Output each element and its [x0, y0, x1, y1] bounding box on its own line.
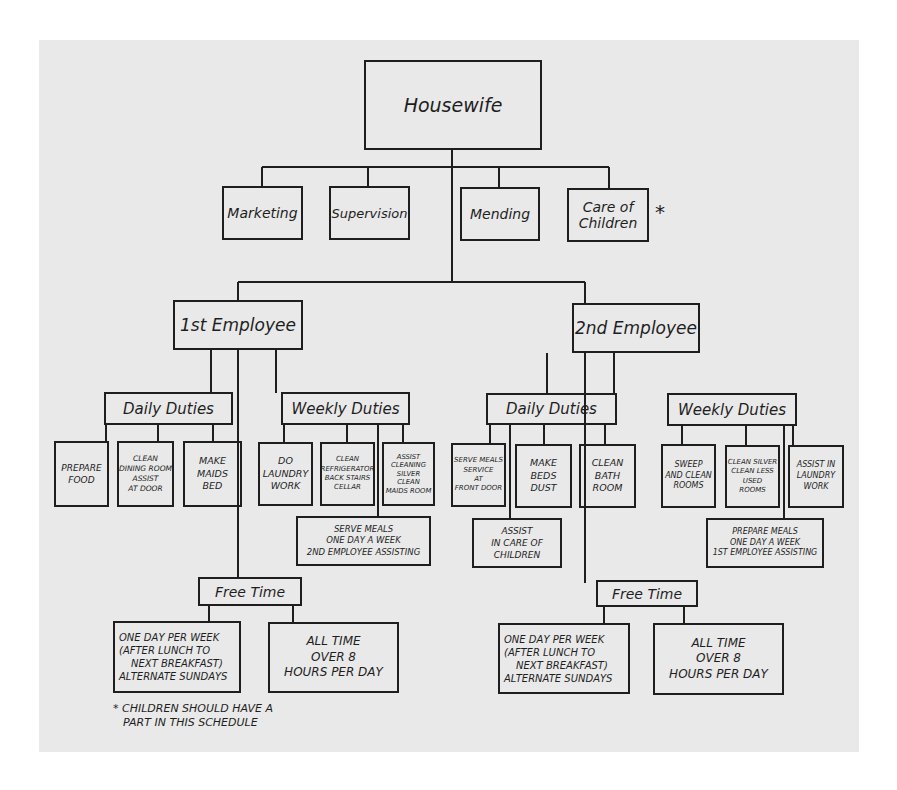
- first-employee-label: 1st Employee: [180, 315, 296, 335]
- first-weekly-task: CLEAN REFRIGERATOR BACK STAIRS CELLAR: [320, 442, 375, 506]
- task-line: 1ST EMPLOYEE ASSISTING: [713, 548, 818, 559]
- task-line: DO: [278, 455, 293, 468]
- task-line: SERVE MEALS: [334, 524, 393, 535]
- free-time-line: HOURS PER DAY: [284, 665, 383, 681]
- task-line: ASSIST: [397, 453, 421, 461]
- task-line: CLEAN: [397, 478, 420, 486]
- second-daily-task: CLEAN BATH ROOM: [579, 444, 636, 508]
- first-free-time-box: Free Time: [198, 577, 302, 606]
- first-weekly-task: DO LAUNDRY WORK: [258, 442, 313, 506]
- task-line: LAUNDRY: [263, 468, 309, 481]
- supervision-label: Supervision: [332, 206, 408, 221]
- task-line: WORK: [803, 482, 828, 493]
- second-free-time-item: ONE DAY PER WEEK (AFTER LUNCH TO NEXT BR…: [498, 623, 630, 694]
- footnote: * CHILDREN SHOULD HAVE A PART IN THIS SC…: [113, 702, 273, 730]
- second-free-time-box: Free Time: [596, 580, 698, 607]
- footnote-line: * CHILDREN SHOULD HAVE A: [113, 702, 273, 716]
- free-time-line: OVER 8: [311, 650, 356, 666]
- asterisk-marker: *: [655, 200, 665, 224]
- second-weekly-extra-task: PREPARE MEALS ONE DAY A WEEK 1ST EMPLOYE…: [706, 518, 824, 568]
- task-line: USED: [743, 477, 762, 486]
- first-daily-task: PREPARE FOOD: [54, 441, 109, 507]
- task-line: ASSIST: [133, 474, 159, 484]
- task-line: CLEANING: [391, 461, 426, 469]
- marketing-label: Marketing: [227, 205, 297, 221]
- second-free-time-item: ALL TIME OVER 8 HOURS PER DAY: [653, 623, 784, 695]
- task-line: BED: [203, 480, 223, 493]
- task-line: ROOMS: [739, 486, 765, 495]
- housewife-box: Housewife: [364, 60, 542, 150]
- task-line: ONE DAY A WEEK: [730, 538, 800, 549]
- free-time-line: (AFTER LUNCH TO: [119, 644, 210, 657]
- free-time-line: ONE DAY PER WEEK: [504, 633, 604, 646]
- task-line: ASSIST IN: [797, 460, 836, 471]
- task-line: ROOM: [593, 482, 623, 495]
- second-employee-box: 2nd Employee: [572, 303, 700, 353]
- daily-duties-label: Daily Duties: [123, 400, 214, 418]
- free-time-line: (AFTER LUNCH TO: [504, 646, 595, 659]
- daily-duties-label: Daily Duties: [506, 400, 597, 418]
- task-line: BATH: [595, 470, 620, 483]
- task-line: CLEAN LESS: [731, 467, 773, 476]
- care-of-children-line: Children: [579, 215, 638, 231]
- task-line: FRONT DOOR: [455, 484, 502, 493]
- second-daily-task: SERVE MEALS SERVICE AT FRONT DOOR: [451, 443, 506, 507]
- footnote-line: PART IN THIS SCHEDULE: [113, 716, 273, 730]
- free-time-line: NEXT BREAKFAST): [504, 659, 608, 672]
- task-line: REFRIGERATOR: [321, 465, 375, 474]
- second-employee-label: 2nd Employee: [575, 318, 697, 338]
- second-weekly-task: CLEAN SILVER CLEAN LESS USED ROOMS: [725, 445, 780, 508]
- second-weekly-task: ASSIST IN LAUNDRY WORK: [788, 445, 844, 508]
- task-line: ROOMS: [673, 481, 703, 492]
- task-line: IN CARE OF: [491, 537, 543, 549]
- task-line: MAIDS: [197, 468, 228, 481]
- task-line: 2ND EMPLOYEE ASSISTING: [307, 547, 421, 558]
- task-line: WORK: [271, 480, 301, 493]
- free-time-line: ONE DAY PER WEEK: [119, 631, 219, 644]
- care-of-children-line: Care of: [583, 199, 634, 215]
- task-line: SILVER: [397, 470, 420, 478]
- task-line: ONE DAY A WEEK: [326, 535, 401, 546]
- weekly-duties-label: Weekly Duties: [678, 401, 786, 419]
- free-time-line: ALL TIME: [306, 634, 360, 650]
- free-time-line: HOURS PER DAY: [669, 667, 768, 683]
- first-employee-box: 1st Employee: [173, 300, 303, 350]
- first-weekly-task: ASSIST CLEANING SILVER CLEAN MAIDS ROOM: [382, 442, 435, 506]
- second-daily-extra-task: ASSIST IN CARE OF CHILDREN: [472, 518, 562, 568]
- first-daily-task: CLEAN DINING ROOM ASSIST AT DOOR: [117, 441, 174, 507]
- task-line: DUST: [530, 482, 556, 495]
- task-line: CLEAN: [592, 457, 624, 470]
- task-line: MAKE: [199, 455, 226, 468]
- task-line: AND CLEAN: [665, 471, 712, 482]
- mending-label: Mending: [470, 206, 530, 222]
- task-line: CLEAN: [336, 455, 359, 464]
- first-free-time-item: ALL TIME OVER 8 HOURS PER DAY: [268, 622, 399, 693]
- task-line: CLEAN SILVER: [728, 458, 777, 467]
- task-line: PREPARE MEALS: [732, 527, 797, 538]
- task-line: SERVE MEALS: [454, 456, 503, 465]
- task-line: LAUNDRY: [797, 471, 835, 482]
- free-time-label: Free Time: [612, 586, 682, 602]
- task-line: CHILDREN: [494, 549, 540, 561]
- free-time-line: ALTERNATE SUNDAYS: [119, 670, 227, 683]
- task-line: MAIDS ROOM: [386, 487, 432, 495]
- free-time-line: ALL TIME: [691, 636, 745, 652]
- task-line: BEDS: [531, 470, 557, 483]
- task-line: SERVICE: [464, 466, 494, 475]
- task-line: ASSIST: [501, 525, 532, 537]
- task-line: CLEAN: [133, 454, 158, 464]
- free-time-line: OVER 8: [696, 651, 741, 667]
- care-of-children-box: Care of Children: [567, 188, 649, 242]
- second-weekly-task: SWEEP AND CLEAN ROOMS: [661, 444, 716, 508]
- task-line: AT: [474, 475, 483, 484]
- task-line: PREPARE: [61, 462, 101, 474]
- first-weekly-duties-box: Weekly Duties: [281, 392, 410, 425]
- weekly-duties-label: Weekly Duties: [292, 400, 400, 418]
- marketing-box: Marketing: [222, 186, 303, 240]
- second-weekly-duties-box: Weekly Duties: [667, 393, 797, 426]
- first-daily-duties-box: Daily Duties: [104, 392, 233, 425]
- housewife-label: Housewife: [404, 94, 503, 116]
- second-daily-task: MAKE BEDS DUST: [515, 444, 572, 508]
- first-weekly-extra-task: SERVE MEALS ONE DAY A WEEK 2ND EMPLOYEE …: [296, 516, 431, 566]
- free-time-line: ALTERNATE SUNDAYS: [504, 672, 612, 685]
